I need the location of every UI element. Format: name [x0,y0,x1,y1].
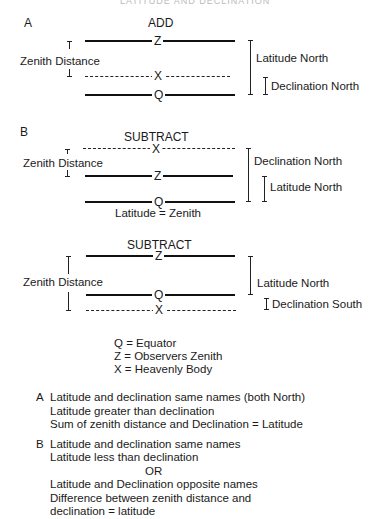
note-a-line: Latitude and declination same names (bot… [50,391,305,405]
zenith-distance-bracket [68,256,69,274]
note-a-letter: A [36,391,50,432]
point-z: Z [152,35,163,47]
latitude-equals-zenith-caption: Latitude = Zenith [115,207,201,220]
legend-item-heavenly-body: X = Heavenly Body [114,363,222,376]
declination-bracket-bottom [263,94,268,95]
point-x: X [153,304,165,316]
note-b-letter: B [36,438,50,519]
section-label-a: A [24,16,32,30]
point-q: Q [152,89,165,101]
note-b-or: OR [50,465,258,479]
zenith-distance-bracket-bottom [66,310,71,311]
declination-north-label: Declination North [254,155,342,168]
point-x: X [150,143,162,155]
note-b-line: declination = latitude [50,505,258,519]
zenith-distance-bracket [67,149,68,154]
legend-item-equator: Q = Equator [114,337,222,350]
page-header-cutoff: LATITUDE AND DECLINATION [120,0,270,6]
declination-bracket [248,148,249,202]
point-z: Z [153,250,164,262]
note-b: B Latitude and declination same names La… [36,438,305,519]
zenith-distance-bracket-bottom [67,76,72,77]
zenith-distance-label: Zenith Distance [23,276,103,289]
note-a: A Latitude and declination same names (b… [36,391,305,432]
latitude-bracket [250,256,251,295]
explanatory-notes: A Latitude and declination same names (b… [36,391,305,519]
declination-bracket [265,77,266,95]
section-label-b: B [20,125,28,139]
declination-bracket-bottom [246,201,251,202]
point-z: Z [152,170,163,182]
note-b-line: Difference between zenith distance and [50,492,258,506]
latitude-bracket-bottom [248,294,253,295]
legend: Q = Equator Z = Observers Zenith X = Hea… [114,337,222,376]
latitude-north-label: Latitude North [270,181,342,194]
note-b-line: Latitude less than declination [50,451,258,465]
point-x: X [152,70,164,82]
note-b-line: Latitude and Declination opposite names [50,478,258,492]
zenith-distance-bracket [69,41,70,49]
point-q: Q [152,289,165,301]
latitude-bracket-bottom [262,201,267,202]
zenith-distance-label: Zenith Distance [20,55,100,68]
latitude-bracket [264,176,265,202]
legend-item-zenith: Z = Observers Zenith [114,350,222,363]
latitude-bracket [250,40,251,95]
zenith-distance-bracket-lower [68,292,69,310]
latitude-north-label: Latitude North [257,277,329,290]
zenith-distance-label: Zenith Distance [23,157,103,170]
note-a-line: Latitude greater than declination [50,405,305,419]
zenith-distance-bracket-bottom [65,176,70,177]
declination-bracket-bottom [264,309,269,310]
declination-north-label: Declination North [271,80,359,93]
note-a-line: Sum of zenith distance and Declination =… [50,418,305,432]
latitude-bracket-bottom [248,94,253,95]
declination-south-label: Declination South [272,298,362,311]
latitude-north-label: Latitude North [256,52,328,65]
operation-add: ADD [148,16,173,30]
note-b-line: Latitude and declination same names [50,438,258,452]
